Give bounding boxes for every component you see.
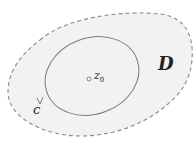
contour-label: c	[33, 102, 40, 117]
point-z0	[87, 77, 91, 81]
region-label: D	[158, 53, 174, 74]
point-label-subscript: 0	[100, 76, 104, 84]
point-label: z0	[94, 69, 104, 84]
diagram-canvas: z0 D c	[0, 0, 196, 145]
